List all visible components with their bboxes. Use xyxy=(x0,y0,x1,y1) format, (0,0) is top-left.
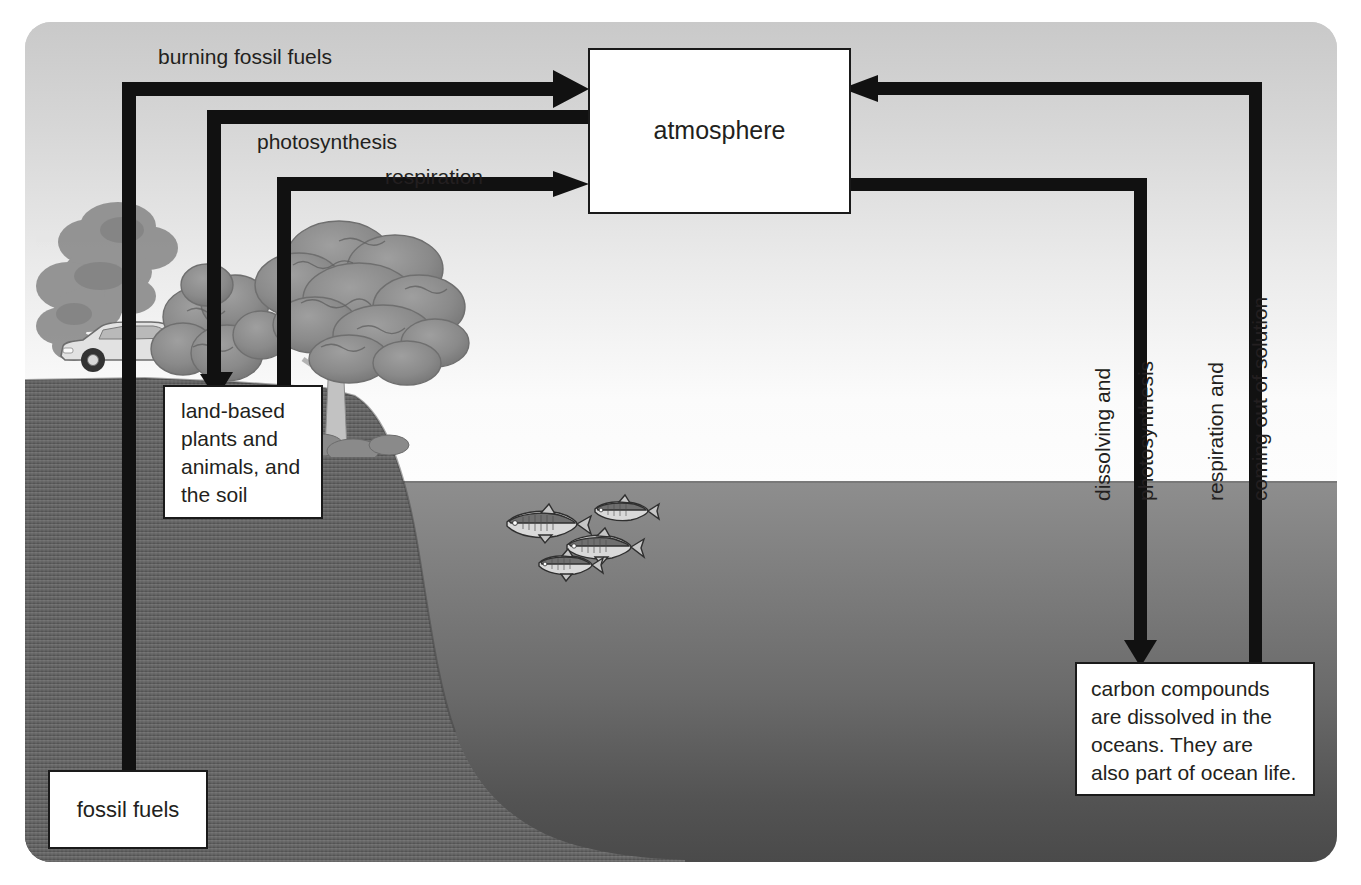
node-fossil-fuels-label: fossil fuels xyxy=(77,795,180,824)
node-ocean-label: carbon compounds are dissolved in the oc… xyxy=(1091,675,1313,787)
flow-label-respiration-and: respiration and xyxy=(1204,362,1228,501)
flow-label-coming-out-of-solution: coming out of solution xyxy=(1248,297,1272,501)
flow-label-photosynthesis: photosynthesis xyxy=(257,130,397,154)
node-land-based-plants[interactable]: land-based plants and animals, and the s… xyxy=(163,385,323,519)
carbon-cycle-diagram: atmosphere land-based plants and animals… xyxy=(0,0,1361,885)
flow-label-respiration: respiration xyxy=(385,165,483,189)
scene-frame: atmosphere land-based plants and animals… xyxy=(25,22,1337,862)
node-atmosphere-label: atmosphere xyxy=(653,114,785,147)
node-land-label: land-based plants and animals, and the s… xyxy=(181,397,321,509)
flow-label-photosynthesis-ocean: photosynthesis xyxy=(1134,361,1158,501)
node-fossil-fuels[interactable]: fossil fuels xyxy=(48,770,208,849)
fish-school-icon xyxy=(495,482,675,592)
node-ocean-carbon[interactable]: carbon compounds are dissolved in the oc… xyxy=(1075,662,1315,796)
node-atmosphere[interactable]: atmosphere xyxy=(588,48,851,214)
flow-label-dissolving-and: dissolving and xyxy=(1091,368,1115,501)
flow-label-burning-fossil-fuels: burning fossil fuels xyxy=(158,45,332,69)
